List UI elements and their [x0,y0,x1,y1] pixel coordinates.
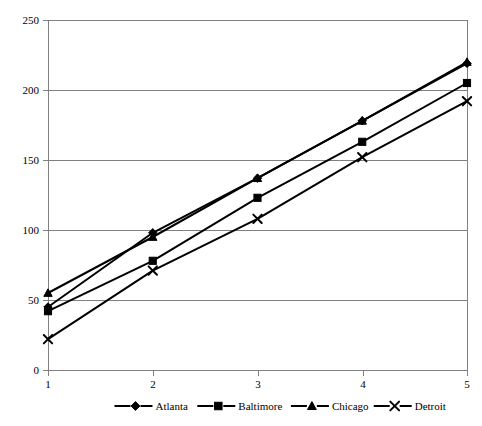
legend-item-baltimore[interactable]: Baltimore [197,400,282,412]
y-axis-label-0: 0 [34,364,40,376]
x-axis-label-2: 2 [150,378,156,390]
diamond-marker-icon [131,402,140,411]
legend-item-atlanta[interactable]: Atlanta [115,400,188,412]
y-axis-label-100: 100 [23,224,40,236]
x-axis-label-4: 4 [360,378,366,390]
x-axis-labels: 1 2 3 4 5 [45,378,470,390]
x-axis-label-5: 5 [464,378,470,390]
chart-legend: AtlantaBaltimoreChicagoDetroit [115,400,446,412]
square-marker-icon [254,194,261,201]
legend-item-chicago[interactable]: Chicago [291,400,369,412]
chart-canvas: 250 200 150 100 50 0 1 2 3 4 5 AtlantaBa… [0,0,482,426]
square-marker-icon [44,308,51,315]
legend-label: Detroit [415,400,446,412]
x-axis-label-1: 1 [45,378,51,390]
legend-label: Atlanta [156,400,188,412]
legend-item-detroit[interactable]: Detroit [374,400,446,412]
y-axis-label-200: 200 [23,84,40,96]
y-axis-ticks [43,21,48,371]
square-marker-icon [463,79,470,86]
y-axis-label-50: 50 [28,294,40,306]
square-marker-icon [359,138,366,145]
legend-label: Baltimore [238,400,282,412]
y-axis-label-250: 250 [23,14,40,26]
y-axis-labels: 250 200 150 100 50 0 [23,14,40,376]
x-marker-icon [390,402,399,411]
y-axis-label-150: 150 [23,154,40,166]
line-chart: 250 200 150 100 50 0 1 2 3 4 5 AtlantaBa… [0,0,482,426]
x-axis-label-3: 3 [255,378,261,390]
square-marker-icon [215,402,222,409]
triangle-marker-icon [308,402,317,410]
square-marker-icon [149,257,156,264]
legend-label: Chicago [332,400,369,412]
